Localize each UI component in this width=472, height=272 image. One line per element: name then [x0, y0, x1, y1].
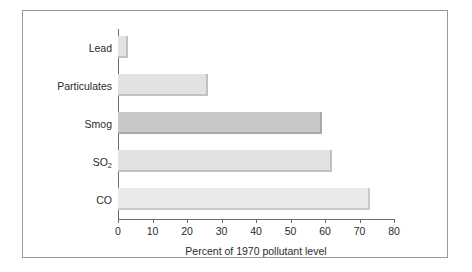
bar-row: Lead	[118, 29, 394, 67]
bar	[118, 150, 332, 172]
chart-frame: LeadParticulatesSmogSO2CO 01020304050607…	[22, 10, 448, 258]
x-tick	[187, 219, 188, 223]
x-tick-label: 50	[285, 225, 297, 237]
x-tick	[222, 219, 223, 223]
x-tick-label: 10	[147, 225, 159, 237]
bar-category-label: SO2	[0, 156, 112, 168]
x-tick-label: 20	[181, 225, 193, 237]
x-tick	[153, 219, 154, 223]
plot-area: LeadParticulatesSmogSO2CO 01020304050607…	[118, 29, 394, 219]
x-tick	[325, 219, 326, 223]
bar	[118, 188, 370, 210]
x-axis-title: Percent of 1970 pollutant level	[118, 245, 394, 257]
x-tick-label: 60	[319, 225, 331, 237]
x-tick	[291, 219, 292, 223]
bar-row: Particulates	[118, 67, 394, 105]
x-tick-label: 0	[115, 225, 121, 237]
bar-row: Smog	[118, 105, 394, 143]
bar	[118, 74, 208, 96]
bar-category-label: Particulates	[0, 80, 112, 92]
bar	[118, 36, 128, 58]
x-tick	[118, 219, 119, 223]
x-tick	[360, 219, 361, 223]
bar-row: CO	[118, 181, 394, 219]
x-tick-label: 40	[250, 225, 262, 237]
x-tick	[394, 219, 395, 223]
so2-subscript: 2	[108, 161, 112, 170]
x-tick-label: 70	[354, 225, 366, 237]
bar-category-label: CO	[0, 194, 112, 206]
x-tick-label: 30	[216, 225, 228, 237]
bar-row: SO2	[118, 143, 394, 181]
bar-category-label: Smog	[0, 118, 112, 130]
bar-category-label: Lead	[0, 42, 112, 54]
x-tick	[256, 219, 257, 223]
x-tick-label: 80	[388, 225, 400, 237]
bar	[118, 112, 322, 134]
